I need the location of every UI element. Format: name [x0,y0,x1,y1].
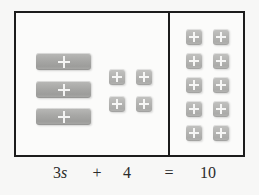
unit-tile[interactable] [186,29,202,45]
unit-tile[interactable] [186,77,202,93]
equation-row: 3s + 4 = 10 [14,160,245,186]
unit-tile[interactable] [186,125,202,141]
unit-tile[interactable] [213,53,229,69]
unit-tile[interactable] [136,69,152,85]
variable-tile[interactable] [36,53,91,70]
equation-coefficient: 3 [53,164,61,181]
unit-tile[interactable] [213,101,229,117]
unit-tile[interactable] [109,96,125,112]
unit-tile[interactable] [186,101,202,117]
unit-tile[interactable] [213,29,229,45]
right-side-panel [170,11,245,157]
variable-tile[interactable] [36,81,91,98]
equation-variable-letter: s [61,164,67,181]
equation-variable-term: 3s [44,160,76,186]
equation-right-value: 10 [194,160,222,186]
unit-tile[interactable] [136,96,152,112]
variable-tile[interactable] [36,108,91,125]
equation-equals-operator: = [160,160,178,186]
equation-constant-term: 4 [118,160,136,186]
unit-tile[interactable] [109,69,125,85]
unit-tile[interactable] [213,125,229,141]
equation-plus-operator: + [88,160,106,186]
unit-tile[interactable] [213,77,229,93]
unit-tile[interactable] [186,53,202,69]
algebra-tiles-diagram: 3s + 4 = 10 [0,0,259,195]
